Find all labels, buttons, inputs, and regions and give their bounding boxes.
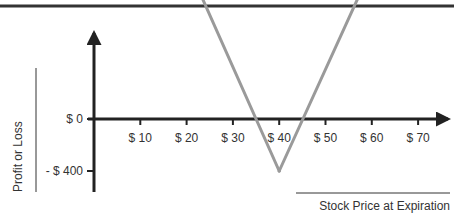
y-ticks: $ 0- $ 400 (46, 112, 94, 178)
x-tick-label: $ 50 (314, 131, 338, 145)
y-tick-label: - $ 400 (46, 164, 84, 178)
x-tick-label: $ 70 (406, 131, 430, 145)
payoff-vertex-point (278, 170, 281, 173)
x-tick-label: $ 30 (221, 131, 245, 145)
x-tick-label: $ 10 (129, 131, 153, 145)
x-tick-label: $ 20 (175, 131, 199, 145)
series (194, 0, 367, 172)
straddle-payoff-chart: Profit or Loss Stock Price at Expiration… (0, 0, 464, 218)
x-tick-label: $ 40 (268, 131, 292, 145)
payoff-line-right-leg (279, 0, 366, 171)
y-tick-label: $ 0 (66, 112, 83, 126)
payoff-line-left-leg (194, 0, 280, 171)
x-axis-title: Stock Price at Expiration (319, 199, 450, 213)
x-ticks: $ 10$ 20$ 30$ 40$ 50$ 60$ 70 (129, 119, 430, 145)
y-axis-title: Profit or Loss (11, 121, 25, 192)
x-tick-label: $ 60 (360, 131, 384, 145)
